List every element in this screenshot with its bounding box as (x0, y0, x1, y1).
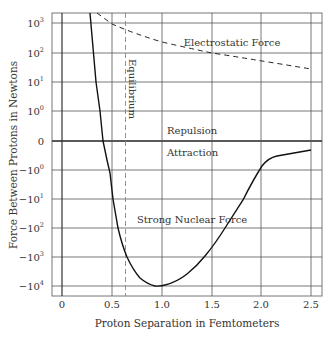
svg-text:0.5: 0.5 (104, 299, 120, 310)
strong-nuclear-force-label: Strong Nuclear Force (137, 214, 247, 225)
svg-text:1.5: 1.5 (204, 299, 220, 310)
svg-text:0: 0 (59, 299, 65, 310)
attraction-label: Attraction (166, 147, 219, 158)
svg-text:1.0: 1.0 (154, 299, 170, 310)
svg-text:−103: −103 (19, 250, 44, 263)
force-chart: 103 102 101 100 0 −100 −101 −102 −103 −1… (0, 0, 333, 343)
svg-text:2.5: 2.5 (303, 299, 319, 310)
svg-text:2.0: 2.0 (253, 299, 269, 310)
svg-text:103: 103 (27, 16, 44, 29)
svg-text:−102: −102 (19, 221, 44, 234)
x-tick-labels: 0 0.5 1.0 1.5 2.0 2.5 (59, 299, 319, 310)
svg-text:101: 101 (27, 75, 44, 88)
svg-text:−101: −101 (19, 192, 44, 205)
repulsion-label: Repulsion (167, 125, 218, 136)
svg-text:−100: −100 (19, 163, 44, 176)
y-tick-labels: 103 102 101 100 0 −100 −101 −102 −103 −1… (19, 16, 44, 292)
svg-text:102: 102 (27, 46, 44, 59)
svg-text:−104: −104 (19, 279, 44, 292)
y-axis-label: Force Between Protons in Newtons (7, 61, 19, 249)
x-axis-label: Proton Separation in Femtometers (95, 317, 280, 329)
electrostatic-force-label: Electrostatic Force (184, 37, 281, 48)
svg-text:0: 0 (38, 136, 44, 147)
svg-text:100: 100 (27, 104, 44, 117)
equilibrium-label: Equilibrium (127, 59, 138, 120)
